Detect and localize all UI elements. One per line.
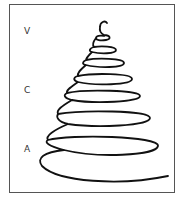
- spiral-path: [40, 22, 168, 182]
- spiral-drawing: [0, 0, 182, 203]
